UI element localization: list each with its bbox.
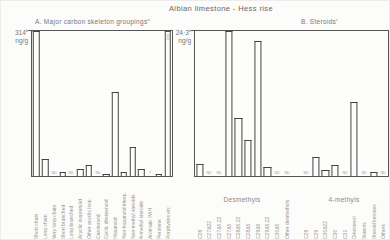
bar [225, 31, 232, 176]
bar-slot: 4-methyl steroids [137, 31, 146, 176]
bar [33, 31, 39, 176]
figure: Albian limestone - Hess rise A. Major ca… [0, 0, 390, 240]
x-tick-label: Stanols [361, 179, 366, 239]
bar-slot: NDCarotenoid [93, 31, 102, 176]
not-detected-mark: ND [361, 171, 366, 175]
not-detected-mark: ND [207, 171, 212, 175]
bar [138, 169, 144, 176]
bar-slot: NDLong branched [67, 31, 76, 176]
bar-slot: C26 [195, 31, 205, 176]
bar-slot: C28Δ5,22 [234, 31, 244, 176]
not-detected-mark: ND [381, 171, 386, 175]
x-tick-label: C30Δ22 [323, 179, 328, 239]
panel-b-title-text: B. Steroids [301, 18, 336, 25]
x-tick-label: Other desmethyls [284, 179, 289, 239]
not-detected-mark: ND [51, 171, 56, 175]
x-tick-label: Short chain [34, 179, 39, 239]
bar-slot: NDOther desmethyls [282, 31, 292, 176]
x-tick-label: Non-methyl steroids [130, 179, 135, 239]
bar [312, 157, 319, 176]
panel-a-title-footnote: a [147, 17, 150, 22]
panel-a-plot-area: Short chainLong chainNDVery long chainSh… [31, 30, 173, 177]
x-tick-label: Other acyclic isop. [86, 179, 91, 239]
x-tick-label: 4-methyl steroids [139, 179, 144, 239]
bar [245, 140, 252, 176]
bar [112, 92, 118, 176]
x-tick-label: C30 [333, 179, 338, 239]
figure-title: Albian limestone - Hess rise [116, 4, 326, 13]
bar-slot: Other acyclic isop. [85, 31, 94, 176]
group-label-4-methyls: 4-methyls [301, 196, 387, 203]
bar-slot: Cyclic diterpenoid [102, 31, 111, 176]
bar [42, 159, 48, 176]
x-tick-label: C27Δ5,22 [217, 179, 222, 239]
bar-slot: C29Δ5 [253, 31, 263, 176]
not-detected-mark: ND [217, 171, 222, 175]
bar-slot: Acyclic isoprenoid [76, 31, 85, 176]
bar-slot: Short branched [58, 31, 67, 176]
x-tick-label: Cyclic diterpenoid [104, 179, 109, 239]
bar-slot: C27Δ5 [224, 31, 234, 176]
bar-slot: NDVery long chain [50, 31, 59, 176]
x-tick-label: C31 [342, 179, 347, 239]
bar-slot: C30 [330, 31, 340, 176]
bar [86, 165, 92, 176]
x-tick-label: Porphyrins etc. [165, 179, 170, 239]
panel-a-axis-unit: ng/g [1, 37, 28, 45]
bar: (x2) [164, 31, 170, 176]
x-tick-label: Hopanoid [113, 179, 118, 239]
panel-b-axis-value: 24·3 [176, 29, 189, 36]
x-tick-label: Aromatic PAH [148, 179, 153, 239]
bar-slot: TAromatic PAH [146, 31, 155, 176]
panel-b-bars: C26NDC27Δ22NDC27Δ5,22C27Δ5C28Δ5,22C28Δ5C… [195, 31, 388, 176]
bar-slot: C29Δ5,22 [263, 31, 273, 176]
panel-a-title-text: A. Major carbon skeleton groupings [35, 18, 147, 25]
x-tick-label: Dinosterol [352, 179, 357, 239]
bar-slot: Steroid ketones [369, 31, 379, 176]
x-tick-label: Steroid ketones [371, 179, 376, 239]
bar-slot: NDC28 [301, 31, 311, 176]
bar-slot: Short chain [32, 31, 41, 176]
x-tick-label: C29 [313, 179, 318, 239]
bar-slot: NDC27Δ5,22 [214, 31, 224, 176]
x-tick-label: C29Δ5 [255, 179, 260, 239]
bar [254, 41, 261, 176]
bar-slot: NDOthers [378, 31, 388, 176]
panel-a-bars: Short chainLong chainNDVery long chainSh… [32, 31, 172, 176]
x-tick-label: C28 [304, 179, 309, 239]
bar [351, 102, 358, 176]
x-tick-label: Very long chain [51, 179, 56, 239]
x-tick-label: Short branched [60, 179, 65, 239]
bar-slot: NDC30Δ5 [272, 31, 282, 176]
bar [59, 172, 65, 176]
bar [156, 174, 162, 176]
panel-a-axis-max: 314b [1, 28, 28, 37]
x-tick-label: Long chain [43, 179, 48, 239]
panel-a-title: A. Major carbon skeleton groupingsa [35, 17, 150, 25]
bar-slot: (x2)Porphyrins etc. [163, 31, 172, 176]
x-tick-label: Long branched [69, 179, 74, 239]
not-detected-mark: ND [342, 171, 347, 175]
bar [331, 165, 338, 176]
x-tick-label: C29Δ5,22 [265, 179, 270, 239]
bar [196, 164, 203, 176]
bar [235, 118, 242, 176]
x-tick-label: C27Δ5 [226, 179, 231, 239]
x-tick-label: Carotenoid [95, 179, 100, 239]
x-tick-label: C28Δ5 [246, 179, 251, 239]
bar-slot: Hopanoid [111, 31, 120, 176]
x-tick-label: C26 [197, 179, 202, 239]
panel-b-title-footnote: c [336, 17, 338, 22]
bar [77, 169, 83, 176]
bar-slot: Non-hopanoid triterp. [120, 31, 129, 176]
bar-slot: C28Δ5 [243, 31, 253, 176]
panel-b-plot-area: C26NDC27Δ22NDC27Δ5,22C27Δ5C28Δ5,22C28Δ5C… [194, 30, 389, 177]
x-tick-label: Acyclic isoprenoid [78, 179, 83, 239]
panel-a-axis-value: 314 [15, 29, 26, 36]
bar [103, 174, 109, 176]
bar-slot: NDC27Δ22 [205, 31, 215, 176]
not-detected-mark: ND [95, 171, 100, 175]
bar [322, 170, 329, 176]
not-detected-mark: ND [284, 171, 289, 175]
bar-slot: Non-methyl steroids [128, 31, 137, 176]
